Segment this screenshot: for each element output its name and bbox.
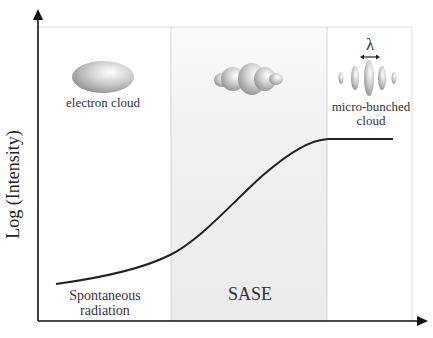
lambda-label: λ <box>360 36 380 55</box>
fel-gain-diagram: Log (Intensity) electron cloud micro-bun… <box>0 0 433 338</box>
y-axis-arrow-icon <box>33 9 43 20</box>
sase-label: SASE <box>210 285 290 305</box>
spontaneous-radiation-label: Spontaneous radiation <box>56 288 154 319</box>
electron-cloud-icon <box>72 61 134 93</box>
x-axis-arrow-icon <box>417 316 428 326</box>
micro-bunched-label-line1: micro-bunched <box>327 100 415 114</box>
spontaneous-label-line1: Spontaneous <box>56 288 154 303</box>
micro-bunched-label-line2: cloud <box>327 114 415 128</box>
spontaneous-label-line2: radiation <box>56 303 154 318</box>
micro-bunched-label: micro-bunched cloud <box>327 100 415 129</box>
y-axis-label: Log (Intensity) <box>3 120 24 250</box>
electron-cloud-label: electron cloud <box>55 96 151 110</box>
